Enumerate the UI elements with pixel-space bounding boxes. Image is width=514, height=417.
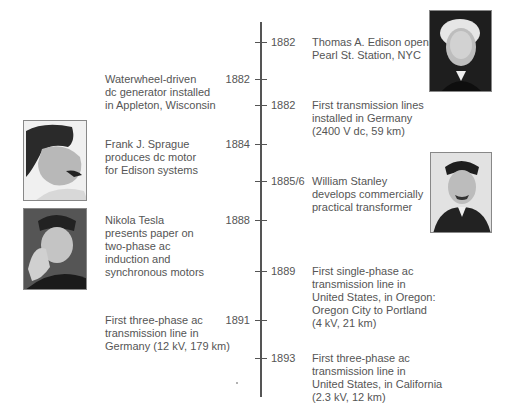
portrait-stanley	[430, 152, 492, 233]
event-germany-transmission: First transmission lines installed in Ge…	[312, 99, 424, 138]
tick-1884	[255, 144, 267, 145]
tick-1882-edison	[255, 42, 267, 43]
tick-1882-germany	[255, 105, 267, 106]
year-label: 1884	[200, 138, 250, 151]
tick-1891	[255, 320, 267, 321]
portrait-sprague	[23, 120, 87, 201]
event-germany-three-phase: First three-phase ac transmission line i…	[105, 314, 230, 353]
tick-1888	[255, 220, 267, 221]
tick-1893	[255, 358, 267, 359]
year-label: 1882	[271, 99, 295, 112]
portrait-tesla	[23, 208, 87, 290]
portrait-edison	[429, 10, 492, 92]
tick-1882-appleton	[255, 79, 267, 80]
tick-1889	[255, 271, 267, 272]
event-tesla-paper: Nikola Tesla presents paper on two-phase…	[105, 214, 204, 279]
year-label: 1885/6	[271, 175, 305, 188]
event-edison-pearl-st: Thomas A. Edison opens Pearl St. Station…	[312, 36, 434, 62]
year-label: 1893	[271, 352, 295, 365]
event-appleton-generator: Waterwheel-driven dc generator installed…	[105, 73, 216, 112]
event-sprague-motor: Frank J. Sprague produces dc motor for E…	[105, 138, 198, 177]
event-california-line: First three-phase ac transmission line i…	[312, 352, 442, 404]
event-stanley-transformer: William Stanley develops commercially pr…	[312, 175, 423, 214]
tick-1885-6	[255, 181, 267, 182]
year-label: 1882	[271, 36, 295, 49]
scan-artifact-dot	[236, 382, 238, 384]
year-label: 1889	[271, 265, 295, 278]
event-oregon-line: First single-phase ac transmission line …	[312, 265, 436, 330]
year-label: 1888	[200, 214, 250, 227]
